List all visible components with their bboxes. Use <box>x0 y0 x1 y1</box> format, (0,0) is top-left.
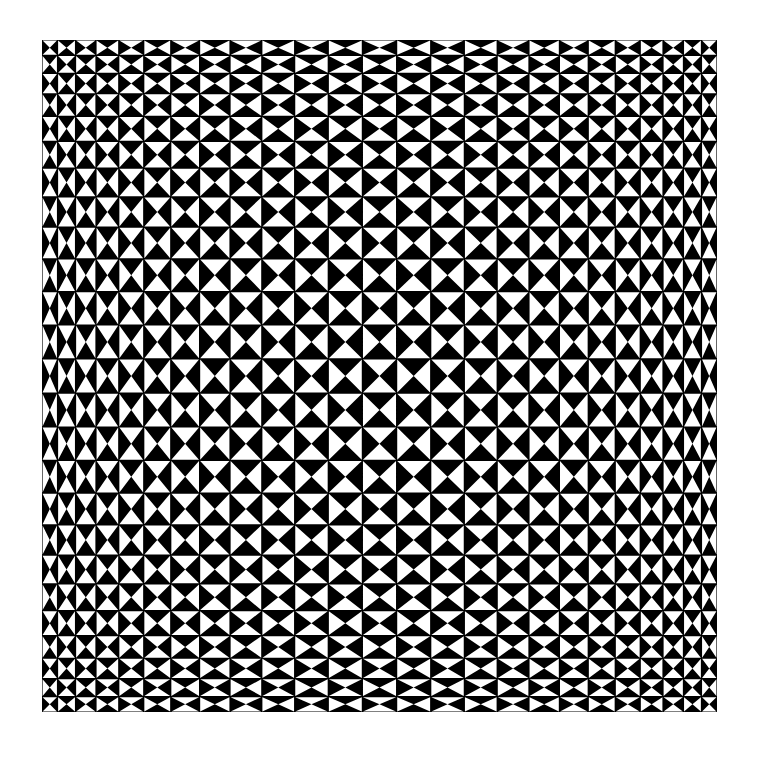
op-art-pattern <box>0 0 759 757</box>
